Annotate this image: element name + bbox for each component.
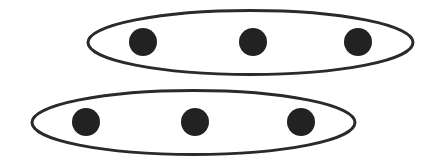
dot [72,108,100,136]
grouped-dots-diagram [0,0,431,162]
bottom-group [32,91,355,155]
top-group [88,11,413,75]
dot [287,108,315,136]
dot [239,28,267,56]
diagram-canvas [0,0,431,162]
dot [129,28,157,56]
dot [344,28,372,56]
dot [181,108,209,136]
